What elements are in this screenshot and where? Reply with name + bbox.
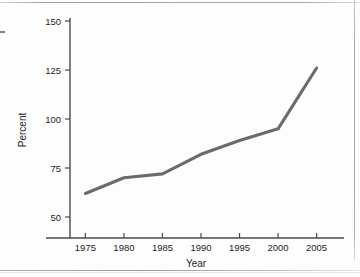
y-tick-label: 50 <box>50 212 61 223</box>
chart-canvas: 5075100125150 19751980198519901995200020… <box>0 0 360 277</box>
x-tick-label: 1995 <box>229 242 250 253</box>
y-tick-label: 75 <box>50 163 61 174</box>
data-series-line <box>85 68 316 193</box>
x-tick-label: 2005 <box>306 242 327 253</box>
line-chart-figure: 5075100125150 19751980198519901995200020… <box>0 0 360 277</box>
x-axis-tick-labels: 1975198019851990199520002005 <box>75 242 327 253</box>
x-tick-label: 1985 <box>152 242 173 253</box>
x-axis-title: Year <box>186 258 207 269</box>
x-tick-label: 1975 <box>75 242 96 253</box>
y-axis-title: Percent <box>17 113 28 148</box>
y-tick-label: 125 <box>45 65 61 76</box>
y-tick-label: 100 <box>45 114 61 125</box>
x-tick-label: 2000 <box>267 242 288 253</box>
y-tick-label: 150 <box>45 16 61 27</box>
x-tick-label: 1980 <box>113 242 134 253</box>
y-axis-ticks <box>65 21 70 217</box>
x-tick-label: 1990 <box>190 242 211 253</box>
y-axis-tick-labels: 5075100125150 <box>45 16 61 223</box>
x-axis-ticks <box>85 233 316 238</box>
